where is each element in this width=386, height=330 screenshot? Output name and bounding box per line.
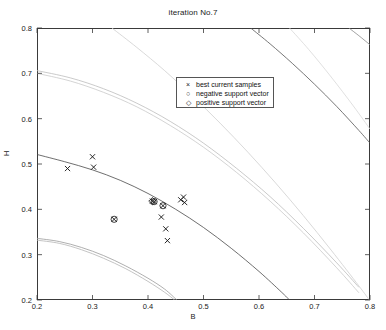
x-tick-label: 0.6: [244, 302, 274, 311]
x-tick-label: 0.3: [78, 302, 108, 311]
plot-area: [37, 28, 370, 300]
legend-marker-o-icon: ○: [180, 89, 196, 98]
legend-item[interactable]: ×best current samples: [177, 80, 273, 89]
x-tick-label: 0.7: [300, 302, 330, 311]
chart-title: iteration No.7: [0, 8, 386, 17]
chart-legend[interactable]: ×best current samples○negative support v…: [176, 77, 274, 108]
legend-label: negative support vector: [196, 89, 269, 98]
x-tick-label: 0.5: [189, 302, 219, 311]
y-tick-label: 0.5: [6, 160, 32, 169]
legend-item[interactable]: ◇positive support vector: [177, 98, 273, 107]
legend-label: positive support vector: [196, 98, 266, 107]
y-tick-label: 0.4: [6, 205, 32, 214]
figure-canvas: iteration No.7 H B 0.20.30.40.50.60.70.8…: [0, 0, 386, 330]
y-tick-label: 0.6: [6, 115, 32, 124]
x-axis-title: B: [0, 312, 386, 321]
legend-marker-d-icon: ◇: [180, 98, 196, 107]
x-tick-label: 0.8: [355, 302, 385, 311]
y-tick-label: 0.8: [6, 24, 32, 33]
legend-label: best current samples: [196, 80, 261, 89]
y-axis-title: H: [2, 151, 11, 156]
legend-item[interactable]: ○negative support vector: [177, 89, 273, 98]
y-tick-label: 0.3: [6, 251, 32, 260]
x-tick-label: 0.2: [22, 302, 52, 311]
y-tick-label: 0.7: [6, 69, 32, 78]
legend-marker-x-icon: ×: [180, 80, 196, 89]
x-tick-label: 0.4: [133, 302, 163, 311]
